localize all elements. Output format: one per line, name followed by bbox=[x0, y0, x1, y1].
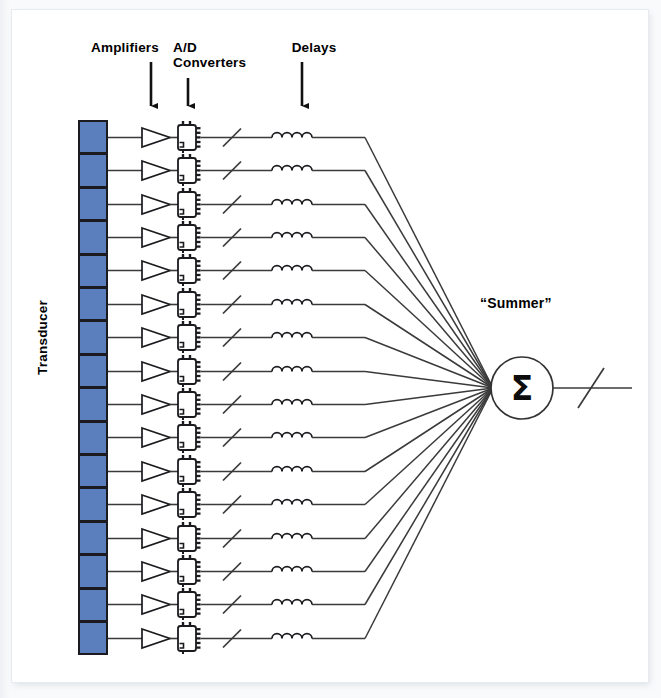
delay-coil-icon bbox=[272, 367, 312, 372]
amplifier-icon bbox=[142, 128, 170, 147]
signal-channel bbox=[108, 188, 493, 388]
wire-bend-to-summer bbox=[365, 388, 493, 605]
signal-channel bbox=[108, 388, 493, 654]
signal-channel bbox=[108, 355, 493, 388]
signal-channel bbox=[108, 121, 493, 388]
transducer-element[interactable] bbox=[78, 387, 108, 421]
delay-coil-icon bbox=[272, 534, 312, 539]
signal-channel bbox=[108, 388, 493, 453]
amplifier-icon bbox=[142, 328, 170, 347]
delay-coil-icon bbox=[272, 233, 312, 238]
transducer-element[interactable] bbox=[78, 454, 108, 488]
amplifier-icon bbox=[142, 228, 170, 247]
transducer-element[interactable] bbox=[78, 120, 108, 154]
amplifier-icon bbox=[142, 595, 170, 614]
delay-coil-icon bbox=[272, 133, 312, 138]
channel-group bbox=[108, 121, 493, 654]
delay-coil-icon bbox=[272, 600, 312, 605]
sigma-symbol: Σ bbox=[511, 369, 534, 408]
wire-bend-to-summer bbox=[365, 388, 493, 505]
wire-bend-to-summer bbox=[365, 271, 493, 389]
signal-channel bbox=[108, 321, 493, 388]
amplifier-icon bbox=[142, 261, 170, 280]
delay-coil-icon bbox=[272, 433, 312, 438]
wire-bend-to-summer bbox=[365, 171, 493, 389]
amplifier-icon bbox=[142, 395, 170, 414]
diagram-stage: Σ Amplifiers A/D Converters Delays “Summ… bbox=[0, 0, 661, 698]
wire-bend-to-summer bbox=[365, 238, 493, 389]
wire-bend-to-summer bbox=[365, 388, 493, 539]
wire-bend-to-summer bbox=[365, 205, 493, 389]
label-ad-converters: A/D Converters bbox=[173, 40, 273, 70]
transducer-element[interactable] bbox=[78, 287, 108, 321]
transducer-element[interactable] bbox=[78, 254, 108, 288]
delay-coil-icon bbox=[272, 200, 312, 205]
wire-bend-to-summer bbox=[365, 388, 493, 572]
wire-bend-to-summer bbox=[365, 388, 493, 639]
label-delays: Delays bbox=[268, 40, 360, 55]
diagram-page: Σ Amplifiers A/D Converters Delays “Summ… bbox=[0, 0, 661, 698]
amplifier-icon bbox=[142, 562, 170, 581]
amplifier-icon bbox=[142, 362, 170, 381]
amplifier-icon bbox=[142, 195, 170, 214]
wire-bend-to-summer bbox=[365, 388, 493, 405]
amplifier-icon bbox=[142, 161, 170, 180]
label-summer: “Summer” bbox=[480, 296, 600, 311]
delay-coil-icon bbox=[272, 300, 312, 305]
transducer-element[interactable] bbox=[78, 621, 108, 655]
label-amplifiers: Amplifiers bbox=[80, 40, 170, 55]
transducer-element[interactable] bbox=[78, 421, 108, 455]
transducer-element[interactable] bbox=[78, 521, 108, 555]
signal-channel bbox=[108, 388, 493, 587]
wire-bend-to-summer bbox=[365, 138, 493, 389]
delay-coil-icon bbox=[272, 500, 312, 505]
amplifier-icon bbox=[142, 428, 170, 447]
transducer-element[interactable] bbox=[78, 588, 108, 622]
amplifier-icon bbox=[142, 462, 170, 481]
transducer-element[interactable] bbox=[78, 487, 108, 521]
transducer-element[interactable] bbox=[78, 187, 108, 221]
delay-coil-icon bbox=[272, 266, 312, 271]
label-transducer: Transducer bbox=[35, 278, 50, 398]
delay-coil-icon bbox=[272, 166, 312, 171]
wire-bend-to-summer bbox=[365, 305, 493, 389]
transducer-element[interactable] bbox=[78, 354, 108, 388]
signal-channel bbox=[108, 388, 493, 420]
transducer-element[interactable] bbox=[78, 554, 108, 588]
transducer-element[interactable] bbox=[78, 220, 108, 254]
delay-coil-icon bbox=[272, 333, 312, 338]
transducer-element[interactable] bbox=[78, 153, 108, 187]
delay-coil-icon bbox=[272, 634, 312, 639]
delay-coil-icon bbox=[272, 400, 312, 405]
amplifier-icon bbox=[142, 529, 170, 548]
amplifier-icon bbox=[142, 295, 170, 314]
amplifier-icon bbox=[142, 495, 170, 514]
amplifier-icon bbox=[142, 629, 170, 648]
transducer-element[interactable] bbox=[78, 320, 108, 354]
summer-node: Σ bbox=[491, 357, 632, 419]
delay-coil-icon bbox=[272, 467, 312, 472]
delay-coil-icon bbox=[272, 567, 312, 572]
